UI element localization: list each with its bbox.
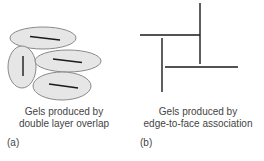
clay-particle bbox=[10, 27, 76, 49]
double-layer-ellipse bbox=[8, 46, 36, 88]
clay-particle bbox=[33, 72, 91, 100]
caption-a-line2: double layer overlap bbox=[0, 118, 128, 130]
caption-b-line2: edge-to-face association bbox=[134, 118, 262, 130]
panel-a-double-layer-overlap bbox=[8, 27, 101, 100]
caption-b: Gels produced by edge-to-face associatio… bbox=[134, 106, 262, 130]
panel-label-a: (a) bbox=[7, 137, 19, 148]
clay-particle bbox=[8, 46, 36, 88]
caption-a: Gels produced by double layer overlap bbox=[0, 106, 128, 130]
panel-label-b: (b) bbox=[140, 137, 152, 148]
caption-b-line1: Gels produced by bbox=[134, 106, 262, 118]
diagram-canvas bbox=[0, 0, 264, 161]
clay-particle bbox=[35, 50, 101, 72]
panel-b-edge-to-face bbox=[140, 3, 238, 92]
caption-a-line1: Gels produced by bbox=[0, 106, 128, 118]
